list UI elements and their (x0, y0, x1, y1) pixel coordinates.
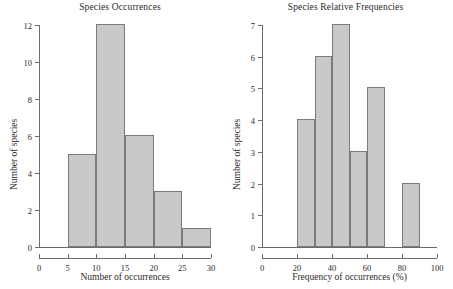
x-axis-label-right: Frequency of occurrences (%) (226, 272, 453, 282)
y-tick-label-left: 2 (28, 206, 32, 216)
x-tick-left (211, 254, 212, 258)
y-tick-label-left: 6 (28, 132, 32, 142)
y-tick-right (258, 184, 262, 185)
histogram-bar (315, 56, 333, 247)
y-tick-label-right: 2 (251, 180, 255, 190)
y-tick-right (258, 247, 262, 248)
y-tick-left (35, 136, 39, 137)
histogram-bar (96, 24, 125, 247)
x-tick-right (367, 254, 368, 258)
panel-species-relative-frequencies: Species Relative Frequencies 01234567 02… (226, 0, 453, 289)
x-tick-left (154, 254, 155, 258)
y-tick-label-right: 5 (251, 84, 255, 94)
plot-area-left: 024681012 (39, 25, 211, 248)
y-tick-label-right: 3 (251, 148, 255, 158)
histogram-bar (154, 191, 183, 248)
y-tick-label-left: 8 (28, 95, 32, 105)
y-tick-label-right: 1 (251, 211, 255, 221)
y-tick-label-left: 4 (28, 169, 32, 179)
x-tick-left (39, 254, 40, 258)
y-tick-left (35, 247, 39, 248)
histogram-bar (367, 87, 385, 247)
y-tick-left (35, 210, 39, 211)
x-axis-label-left: Number of occurrences (0, 272, 226, 282)
histogram-bar (402, 183, 420, 247)
y-tick-right (258, 152, 262, 153)
x-tick-left (96, 254, 97, 258)
y-tick-right (258, 57, 262, 58)
x-tick-right (262, 254, 263, 258)
chart-title-right: Species Relative Frequencies (226, 2, 453, 12)
y-tick-label-left: 12 (24, 21, 33, 31)
y-tick-label-right: 6 (251, 53, 255, 63)
x-scale-right: 020406080100 (262, 258, 437, 259)
x-axis-line-right (262, 247, 437, 248)
x-axis-line-left (39, 247, 211, 248)
y-tick-label-left: 10 (24, 58, 33, 68)
x-scale-left: 051015202530 (39, 258, 211, 259)
y-tick-label-right: 7 (251, 21, 255, 31)
y-axis-line-right (262, 25, 263, 248)
x-tick-left (68, 254, 69, 258)
y-tick-label-left: 0 (28, 243, 32, 253)
y-axis-label-right: Number of species (232, 119, 242, 190)
histogram-bar (68, 154, 97, 248)
plot-area-right: 01234567 (262, 25, 437, 248)
y-tick-left (35, 173, 39, 174)
x-tick-right (297, 254, 298, 258)
x-tick-right (437, 254, 438, 258)
histogram-bar (350, 151, 368, 247)
y-tick-label-right: 0 (251, 243, 255, 253)
histogram-figure: Species Occurrences 024681012 0510152025… (0, 0, 453, 289)
y-tick-label-right: 4 (251, 116, 255, 126)
chart-title-left: Species Occurrences (0, 2, 226, 12)
histogram-bar (332, 24, 350, 247)
histogram-bar (182, 228, 211, 248)
x-tick-left (182, 254, 183, 258)
histogram-bar (125, 135, 154, 247)
y-tick-right (258, 120, 262, 121)
y-axis-line-left (39, 25, 40, 248)
y-tick-left (35, 62, 39, 63)
x-tick-right (402, 254, 403, 258)
y-tick-right (258, 25, 262, 26)
x-tick-right (332, 254, 333, 258)
y-tick-left (35, 25, 39, 26)
histogram-bar (297, 119, 315, 247)
y-tick-left (35, 99, 39, 100)
y-tick-right (258, 88, 262, 89)
x-tick-left (125, 254, 126, 258)
y-axis-label-left: Number of species (9, 119, 19, 190)
y-tick-right (258, 215, 262, 216)
panel-species-occurrences: Species Occurrences 024681012 0510152025… (0, 0, 226, 289)
